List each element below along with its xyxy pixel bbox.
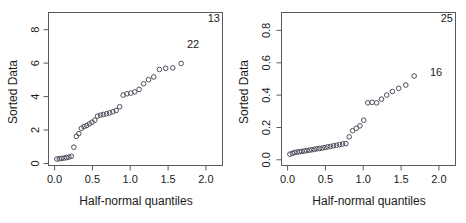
data-point-group [288,74,417,157]
data-point [133,90,138,95]
x-tick-label: 0.5 [318,173,333,185]
plot-frame [49,13,223,166]
y-tick-label: 8 [29,27,41,33]
x-tick-label: 1.5 [393,173,408,185]
data-point [396,86,401,91]
data-point [104,111,109,116]
x-tick-label: 1.0 [123,173,138,185]
x-axis-ticks [55,166,206,171]
data-point-group [55,61,184,161]
chart-panel-left: 0 2 4 6 8 0.0 0.5 1.0 1.5 2.0 [0,0,233,223]
y-tick-label: 6 [29,60,41,66]
annotation-corner: 13 [208,12,220,24]
y-tick-label: 0.6 [260,55,272,70]
x-tick-label: 0.5 [85,173,100,185]
data-point [412,74,417,79]
data-point [137,87,142,92]
plot-area-left: 0 2 4 6 8 0.0 0.5 1.0 1.5 2.0 [0,0,233,223]
data-point [179,61,184,66]
x-tick-label: 2.0 [431,173,446,185]
data-point [390,89,395,94]
data-point [141,81,146,86]
data-point [171,66,176,71]
data-point [146,77,151,82]
y-axis-ticks [277,30,282,159]
y-tick-label: 0.8 [260,23,272,38]
x-tick-label: 1.0 [356,173,371,185]
data-point [374,101,379,106]
y-tick-label: 0.2 [260,120,272,135]
x-axis-ticks [288,166,439,171]
x-tick-label: 0.0 [47,173,62,185]
y-axis-tick-labels: 0 2 4 6 8 [29,27,41,167]
data-point [361,118,366,123]
y-tick-label: 0.4 [260,87,272,102]
data-point [101,112,106,117]
y-axis-title: Sorted Data [237,60,251,124]
x-axis-title: Half-normal quantiles [312,194,425,208]
data-point [358,124,363,129]
data-point [157,67,162,72]
y-tick-label: 4 [29,94,41,100]
data-point [72,145,77,150]
x-axis-tick-labels: 0.0 0.5 1.0 1.5 2.0 [280,173,447,185]
data-point [117,104,122,109]
annotation-point: 22 [187,38,199,50]
y-axis-title: Sorted Data [6,60,20,124]
plot-frame [282,13,456,166]
chart-panel-right: 0.0 0.2 0.4 0.6 0.8 0.0 0.5 1.0 1.5 2.0 [233,0,466,223]
x-tick-label: 1.5 [160,173,175,185]
data-point [404,83,409,88]
y-axis-ticks [44,30,49,164]
y-tick-label: 0.0 [260,152,272,167]
plot-area-right: 0.0 0.2 0.4 0.6 0.8 0.0 0.5 1.0 1.5 2.0 [233,0,466,223]
y-tick-label: 2 [29,127,41,133]
x-axis-tick-labels: 0.0 0.5 1.0 1.5 2.0 [47,173,214,185]
data-point [163,66,168,71]
data-point [347,135,352,140]
y-axis-tick-labels: 0.0 0.2 0.4 0.6 0.8 [260,23,272,168]
y-tick-label: 0 [29,160,41,166]
x-tick-label: 2.0 [198,173,213,185]
annotation-corner: 25 [441,12,453,24]
annotation-point: 16 [430,66,442,78]
x-axis-title: Half-normal quantiles [79,194,192,208]
half-normal-plot-figure: 0 2 4 6 8 0.0 0.5 1.0 1.5 2.0 [0,0,466,223]
x-tick-label: 0.0 [280,173,295,185]
data-point [344,141,349,146]
data-point [384,93,389,98]
data-point [379,97,384,102]
data-point [151,75,156,80]
data-point [95,114,100,119]
